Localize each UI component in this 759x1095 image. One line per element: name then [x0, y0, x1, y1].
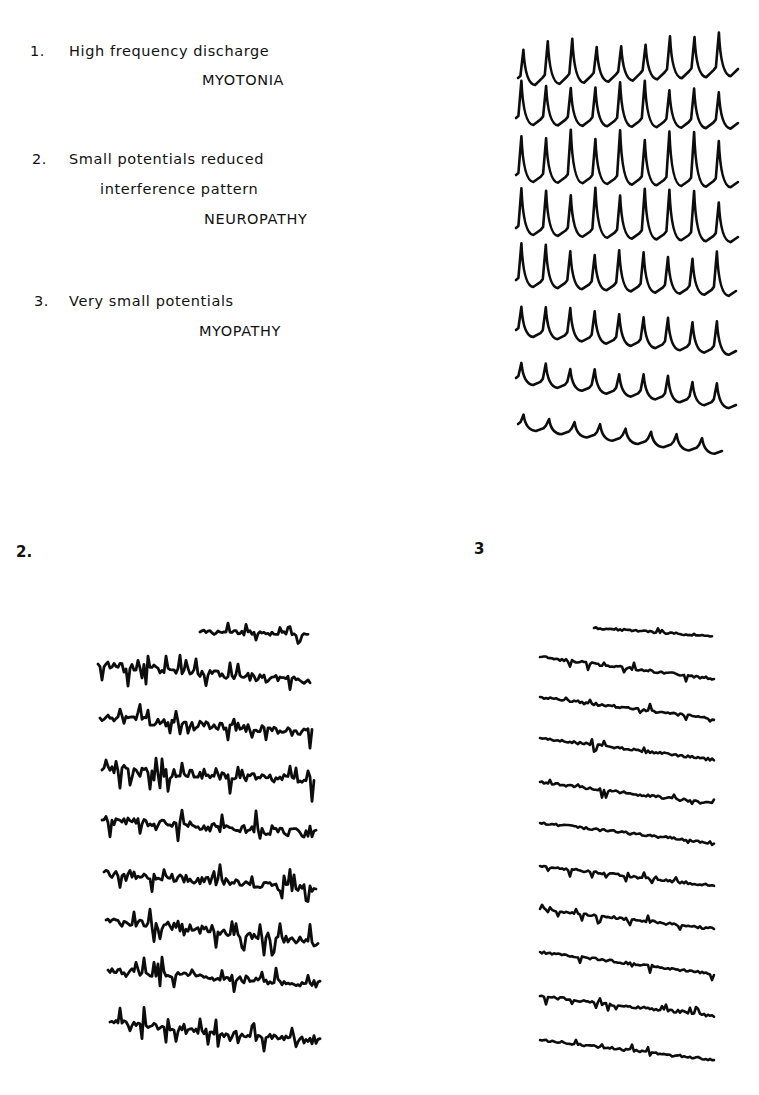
- emg-trace-row: [594, 627, 712, 636]
- panel-3-myopathy-traces: [0, 0, 759, 1095]
- emg-trace-row: [540, 823, 714, 845]
- emg-trace-row: [540, 738, 714, 760]
- emg-trace-row: [540, 905, 714, 930]
- emg-trace-row: [540, 780, 714, 804]
- emg-trace-row: [540, 952, 714, 980]
- emg-trace-row: [540, 657, 714, 682]
- emg-trace-row: [540, 996, 714, 1017]
- emg-trace-row: [540, 1040, 714, 1060]
- emg-trace-row: [540, 697, 714, 721]
- emg-trace-row: [540, 866, 714, 886]
